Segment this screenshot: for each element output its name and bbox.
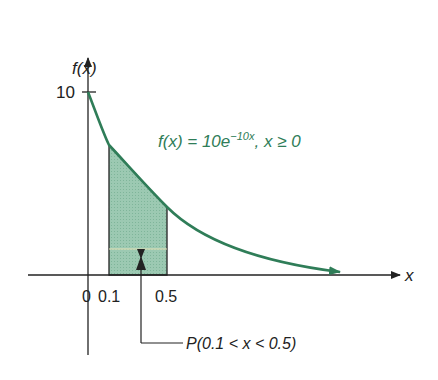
- x-tick-0: 0: [82, 288, 91, 305]
- shaded-probability-area: [109, 145, 167, 275]
- function-label: f(x) = 10e−10x, x ≥ 0: [158, 130, 301, 151]
- probability-label: P(0.1 < x < 0.5): [186, 335, 296, 352]
- y-axis-label: f(x): [72, 59, 97, 78]
- x-tick-0-1: 0.1: [98, 288, 120, 305]
- x-tick-0-5: 0.5: [155, 288, 177, 305]
- y-tick-label: 10: [56, 83, 75, 102]
- x-axis-label: x: [404, 266, 414, 285]
- pdf-chart: f(x) 10 x 0 0.1 0.5 P(0.1 < x < 0.5) f(x…: [0, 0, 438, 380]
